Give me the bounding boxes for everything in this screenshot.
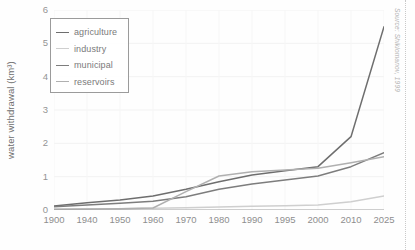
y-axis-tick-label: 4 [30,72,48,82]
legend-swatch-agriculture [56,32,69,33]
legend-swatch-municipal [56,65,69,66]
legend-label: industry [74,44,106,54]
right-dotted-rule [405,0,406,250]
legend-item-industry: industry [51,41,128,58]
legend-label: municipal [74,60,113,70]
legend-item-reservoirs: reservoirs [51,74,128,91]
y-axis-tick-labels: 0123456 [26,0,48,250]
x-axis-tick-label: 2025 [364,214,404,225]
y-axis-tick-label: 5 [30,38,48,48]
y-axis-tick-label: 6 [30,5,48,15]
legend-swatch-industry [56,48,69,49]
legend-label: agriculture [74,27,117,37]
source-note: Source: Shiklomanov, 1999 [390,8,402,108]
legend-label: reservoirs [74,77,115,87]
legend-swatch-reservoirs [56,81,69,82]
y-axis-tick-label: 3 [30,105,48,115]
legend-item-agriculture: agriculture [51,24,128,41]
source-note-text: Source: Shiklomanov, 1999 [389,8,401,108]
water-withdrawal-line-chart: water withdrawal (km³) 0123456 190019401… [0,0,415,250]
y-axis-tick-label: 2 [30,138,48,148]
y-axis-tick-label: 1 [30,172,48,182]
x-axis-tick-labels: 1900194019501960197019801990199520002010… [54,214,384,228]
legend-item-municipal: municipal [51,57,128,74]
y-axis-title-text: water withdrawal (km³) [4,10,18,210]
chart-legend: agricultureindustrymunicipalreservoirs [50,18,129,93]
y-axis-title: water withdrawal (km³) [4,10,18,210]
